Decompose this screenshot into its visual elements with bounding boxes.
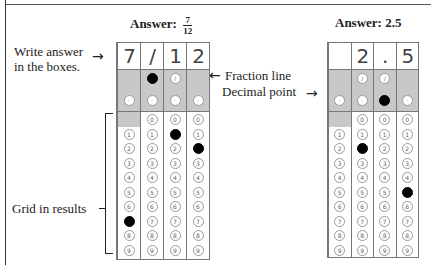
digit-bubble[interactable]: 3: [147, 158, 158, 169]
digit-bubble[interactable]: 8: [334, 230, 345, 241]
digit-bubble[interactable]: 7: [379, 216, 390, 227]
digit-bubble[interactable]: 5: [147, 187, 158, 198]
digit-bubble[interactable]: 2: [147, 143, 158, 154]
digit-bubble[interactable]: 1: [147, 129, 158, 140]
digit-bubble[interactable]: 2: [124, 143, 135, 154]
slash-bubble[interactable]: ∕: [357, 73, 368, 84]
digit-bubble[interactable]: 6: [124, 201, 135, 212]
digit-bubble[interactable]: 0: [379, 114, 390, 125]
digit-bubble[interactable]: 6: [334, 201, 345, 212]
slash-bubble[interactable]: ∕: [147, 73, 158, 84]
digit-bubble[interactable]: 3: [357, 158, 368, 169]
digit-bubble[interactable]: 0: [147, 114, 158, 125]
decimal-bubble[interactable]: ·: [193, 95, 204, 106]
digit-bubble[interactable]: 9: [357, 245, 368, 256]
grid-results-label: Grid in results: [12, 201, 86, 216]
digit-bubble[interactable]: 9: [402, 245, 413, 256]
answer-box[interactable]: 2: [187, 43, 210, 69]
digit-bubble[interactable]: 1: [334, 129, 345, 140]
digit-bubble[interactable]: 4: [402, 172, 413, 183]
decimal-bubble[interactable]: ·: [170, 95, 181, 106]
decimal-bubble[interactable]: ·: [402, 95, 413, 106]
digit-bubble[interactable]: 1: [402, 129, 413, 140]
digit-bubble[interactable]: 2: [334, 143, 345, 154]
digit-bubble[interactable]: 5: [379, 187, 390, 198]
decimal-bubble[interactable]: ·: [357, 95, 368, 106]
digit-bubble[interactable]: 6: [402, 201, 413, 212]
decimal-bubble[interactable]: ·: [379, 95, 390, 106]
digit-bubble[interactable]: 0: [170, 114, 181, 125]
digit-bubble[interactable]: 8: [402, 230, 413, 241]
decimal-bubble[interactable]: ·: [124, 95, 135, 106]
answer-box[interactable]: 1: [164, 43, 187, 69]
digit-bubble[interactable]: 3: [334, 158, 345, 169]
digit-bubble[interactable]: 7: [402, 216, 413, 227]
digit-bubble[interactable]: 7: [193, 216, 204, 227]
digit-bubble[interactable]: 2: [357, 143, 368, 154]
digit-bubble[interactable]: 7: [147, 216, 158, 227]
decimal-bubble[interactable]: ·: [147, 95, 158, 106]
digit-bubble[interactable]: 8: [357, 230, 368, 241]
digit-bubble[interactable]: 8: [193, 230, 204, 241]
digit-bubble[interactable]: 7: [124, 216, 135, 227]
digit-bubble[interactable]: 7: [357, 216, 368, 227]
digit-bubble[interactable]: 4: [124, 172, 135, 183]
digit-bubble[interactable]: 4: [357, 172, 368, 183]
digit-bubble[interactable]: 1: [357, 129, 368, 140]
digit-bubble[interactable]: 5: [402, 187, 413, 198]
digit-bubble[interactable]: 3: [124, 158, 135, 169]
digit-bubble[interactable]: 8: [147, 230, 158, 241]
digit-bubble[interactable]: 4: [170, 172, 181, 183]
digit-bubble[interactable]: 3: [379, 158, 390, 169]
digit-bubble[interactable]: 1: [124, 129, 135, 140]
digit-bubble[interactable]: 6: [357, 201, 368, 212]
digit-bubble[interactable]: 1: [379, 129, 390, 140]
answer-box[interactable]: 7: [118, 43, 141, 69]
digit-bubble[interactable]: 4: [193, 172, 204, 183]
digit-bubble[interactable]: 6: [147, 201, 158, 212]
answer-box[interactable]: 5: [397, 43, 420, 69]
digit-bubble[interactable]: 4: [147, 172, 158, 183]
digit-bubble[interactable]: 7: [170, 216, 181, 227]
slash-bubble[interactable]: ∕: [379, 73, 390, 84]
digit-bubble[interactable]: 4: [334, 172, 345, 183]
digit-bubble[interactable]: 2: [170, 143, 181, 154]
digit-bubble[interactable]: 1: [193, 129, 204, 140]
digit-bubble[interactable]: 2: [402, 143, 413, 154]
grid-column: ·123456789: [328, 43, 352, 257]
digit-bubble[interactable]: 0: [357, 114, 368, 125]
digit-bubble[interactable]: 5: [124, 187, 135, 198]
digit-bubble[interactable]: 9: [124, 245, 135, 256]
digit-bubble[interactable]: 3: [402, 158, 413, 169]
digit-bubble[interactable]: 3: [170, 158, 181, 169]
digit-bubble[interactable]: 6: [170, 201, 181, 212]
digit-bubble[interactable]: 9: [170, 245, 181, 256]
decimal-bubble[interactable]: ·: [334, 95, 345, 106]
digit-bubble[interactable]: 0: [193, 114, 204, 125]
digit-bubble[interactable]: 9: [379, 245, 390, 256]
digit-bubble[interactable]: 0: [402, 114, 413, 125]
digit-bubble[interactable]: 6: [193, 201, 204, 212]
answer-box[interactable]: .: [374, 43, 397, 69]
digit-bubble[interactable]: 4: [379, 172, 390, 183]
digit-bubble[interactable]: 2: [193, 143, 204, 154]
digit-bubble[interactable]: 8: [124, 230, 135, 241]
digit-bubble[interactable]: 5: [357, 187, 368, 198]
digit-bubble[interactable]: 1: [170, 129, 181, 140]
digit-bubble[interactable]: 5: [193, 187, 204, 198]
answer-box[interactable]: /: [141, 43, 164, 69]
answer-box[interactable]: 2: [352, 43, 375, 69]
digit-bubble[interactable]: 6: [379, 201, 390, 212]
digit-bubble[interactable]: 8: [170, 230, 181, 241]
digit-bubble[interactable]: 5: [334, 187, 345, 198]
digit-bubble[interactable]: 2: [379, 143, 390, 154]
slash-bubble[interactable]: ∕: [170, 73, 181, 84]
digit-bubble[interactable]: 9: [193, 245, 204, 256]
digit-bubble[interactable]: 9: [147, 245, 158, 256]
digit-bubble[interactable]: 5: [170, 187, 181, 198]
grid-column: 2·0123456789: [186, 43, 210, 259]
digit-bubble[interactable]: 3: [193, 158, 204, 169]
digit-bubble[interactable]: 7: [334, 216, 345, 227]
digit-bubble[interactable]: 9: [334, 245, 345, 256]
digit-bubble[interactable]: 8: [379, 230, 390, 241]
